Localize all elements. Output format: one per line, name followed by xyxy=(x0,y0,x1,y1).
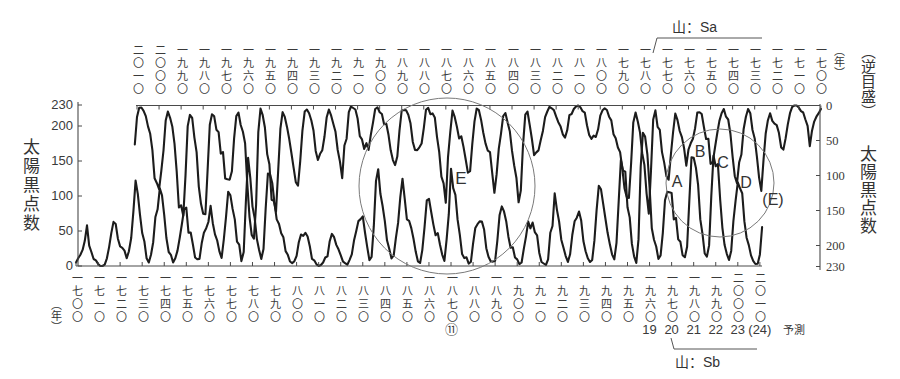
top-year-label: 一八四〇 xyxy=(506,44,519,96)
top-year-label: 一八七〇 xyxy=(439,44,452,96)
top-year-label: 一八八〇 xyxy=(417,44,430,96)
bottom-year-label: 一九九〇 xyxy=(709,272,722,324)
bottom-year-label: 一七〇〇 xyxy=(70,272,83,324)
bottom-year-label: 一九一〇 xyxy=(533,272,546,324)
cycle-number-label: 23 xyxy=(731,323,745,337)
top-year-label: 二〇一〇 xyxy=(131,44,144,96)
peak-sb-label: 山：Sb xyxy=(675,354,720,370)
top-year-label: 一九九〇 xyxy=(175,44,188,96)
top-year-label: 一八一〇 xyxy=(572,44,585,96)
left-y-tick-label: 200 xyxy=(33,119,73,133)
top-year-label: 一八〇〇 xyxy=(594,44,607,96)
top-year-label: 一九五〇 xyxy=(263,44,276,96)
left-y-tick-label: 0 xyxy=(33,259,73,273)
bottom-year-label: 一七五〇 xyxy=(180,272,193,324)
forecast-label: 予測 xyxy=(783,324,805,337)
cycle-number-label: 22 xyxy=(709,323,723,337)
bottom-year-label: 一七三〇 xyxy=(136,272,149,324)
top-year-label: 一九三〇 xyxy=(307,44,320,96)
bottom-year-label: 一八四〇 xyxy=(378,272,391,324)
top-year-label: 一七七〇 xyxy=(660,44,673,96)
top-year-label: 一八六〇 xyxy=(461,44,474,96)
right-y-tick-label: 100 xyxy=(826,169,845,183)
cycle-number-label: 19 xyxy=(642,323,656,337)
top-year-label: 一七〇〇 xyxy=(814,44,827,96)
bottom-year-label: 一八三〇 xyxy=(356,272,369,324)
bottom-year-label: 二〇〇〇 xyxy=(731,272,744,324)
bottom-year-label: 一八九〇 xyxy=(489,272,502,324)
point-b-label: B xyxy=(695,144,706,160)
bottom-year-label: 一七九〇 xyxy=(268,272,281,324)
right-y-tick-label: 50 xyxy=(826,134,839,148)
cycle-number-label: 21 xyxy=(686,323,700,337)
bottom-year-label: 二〇一〇 xyxy=(753,272,766,324)
peak-sa-label: 山：Sa xyxy=(672,19,717,35)
circle-e-reference-label: (E) xyxy=(762,192,783,208)
point-c-label: C xyxy=(717,155,729,171)
bottom-year-label: 一八二〇 xyxy=(334,272,347,324)
top-year-label: 一八二〇 xyxy=(550,44,563,96)
top-year-label: 二〇〇〇 xyxy=(153,44,166,96)
right-y-tick-label: 230 xyxy=(826,260,845,274)
right-y-axis-title: 太陽黒点数 xyxy=(858,145,876,235)
top-year-label: 一七八〇 xyxy=(638,44,651,96)
cycle-number-label: 20 xyxy=(664,323,678,337)
bottom-x-axis-unit: （年） xyxy=(49,299,61,332)
top-year-label: 一九七〇 xyxy=(219,44,232,96)
bottom-year-label: 一八六〇 xyxy=(422,272,435,324)
top-year-label: 一九二〇 xyxy=(329,44,342,96)
top-year-label: 一七四〇 xyxy=(726,44,739,96)
point-d-label: D xyxy=(740,175,752,191)
top-year-label: 一八九〇 xyxy=(395,44,408,96)
bottom-year-label: 一七一〇 xyxy=(92,272,105,324)
left-y-axis-title: 太陽黒点数 xyxy=(21,138,39,233)
top-year-label: 一八三〇 xyxy=(528,44,541,96)
top-year-label: 一七二〇 xyxy=(770,44,783,96)
right-y-tick-label: 200 xyxy=(826,239,845,253)
top-year-label: 一九〇〇 xyxy=(373,44,386,96)
bottom-year-label: 一七八〇 xyxy=(246,272,259,324)
bottom-year-label: 一八一〇 xyxy=(312,272,325,324)
top-year-label: 一九八〇 xyxy=(197,44,210,96)
bottom-year-label: 一八五〇 xyxy=(400,272,413,324)
left-y-tick-label: 230 xyxy=(33,98,73,112)
bottom-year-label: 一七四〇 xyxy=(158,272,171,324)
bottom-year-label: 一九七〇 xyxy=(665,272,678,324)
bottom-year-label: 一九〇〇 xyxy=(511,272,524,324)
left-y-tick-label: 100 xyxy=(33,189,73,203)
bottom-year-label: 一七六〇 xyxy=(202,272,215,324)
bottom-year-label: 一九二〇 xyxy=(555,272,568,324)
top-year-label: 一七一〇 xyxy=(792,44,805,96)
top-year-label: 一九六〇 xyxy=(241,44,254,96)
cycle-number-label: ⑪ xyxy=(445,323,458,337)
bottom-year-label: 一七二〇 xyxy=(114,272,127,324)
bottom-year-label: 一八八〇 xyxy=(467,272,480,324)
bottom-year-label: 一九五〇 xyxy=(621,272,634,324)
top-year-label: 一九四〇 xyxy=(285,44,298,96)
top-year-label: 一七三〇 xyxy=(748,44,761,96)
left-y-tick-label: 150 xyxy=(33,154,73,168)
bottom-year-label: 一八〇〇 xyxy=(290,272,303,324)
top-year-label: 一七六〇 xyxy=(682,44,695,96)
top-year-label: 一八五〇 xyxy=(483,44,496,96)
right-y-tick-label: 150 xyxy=(826,204,845,218)
bottom-year-label: 一八七〇 xyxy=(445,272,458,324)
top-x-axis-unit: （年） xyxy=(832,45,844,78)
cycle-number-label: (24) xyxy=(748,323,771,337)
point-a-label: A xyxy=(672,174,683,190)
top-year-label: 一七九〇 xyxy=(616,44,629,96)
right-y-axis-reversed-note: （逆目盛） xyxy=(859,44,875,119)
circle-e-label: E xyxy=(455,171,466,187)
bottom-year-label: 一九八〇 xyxy=(687,272,700,324)
bottom-year-label: 一九六〇 xyxy=(643,272,656,324)
top-year-label: 一九一〇 xyxy=(351,44,364,96)
bottom-year-label: 一九三〇 xyxy=(577,272,590,324)
bottom-year-label: 一七七〇 xyxy=(224,272,237,324)
top-year-label: 一七五〇 xyxy=(704,44,717,96)
chart-labels-layer: 太陽黒点数 （逆目盛） 太陽黒点数 （年） （年） 山：Sa 山：Sb 予測 E… xyxy=(0,0,900,379)
left-y-tick-label: 50 xyxy=(33,224,73,238)
right-y-tick-label: 0 xyxy=(826,99,832,113)
bottom-year-label: 一九四〇 xyxy=(599,272,612,324)
